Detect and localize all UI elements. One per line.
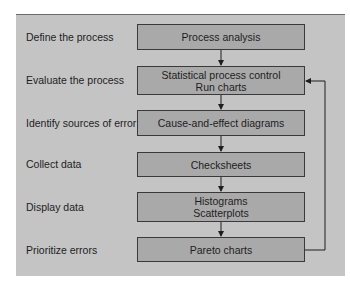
connector-arrows — [0, 0, 350, 289]
feedback-loop-arrow-icon — [305, 81, 325, 250]
